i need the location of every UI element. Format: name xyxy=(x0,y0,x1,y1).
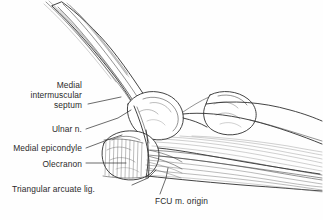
label-line-3: septum xyxy=(54,100,82,110)
anatomical-figure: .ln { fill:none; stroke:#2f2f2f; stroke-… xyxy=(0,0,323,220)
label-line-2: intermuscular xyxy=(30,90,82,100)
label-line-1: Medial xyxy=(57,80,82,90)
label-medial-intermuscular-septum: Medial intermuscular septum xyxy=(8,80,82,111)
leader-septum xyxy=(88,97,121,104)
label-ulnar-nerve: Ulnar n. xyxy=(6,124,82,134)
label-medial-epicondyle: Medial epicondyle xyxy=(0,143,82,153)
label-olecranon: Olecranon xyxy=(10,159,82,169)
label-triangular-arcuate-ligament: Triangular arcuate lig. xyxy=(12,184,130,194)
olecranon-ulna xyxy=(102,131,322,191)
label-fcu-muscle-origin: FCU m. origin xyxy=(155,196,208,206)
leader-ulnar-n xyxy=(86,110,131,129)
